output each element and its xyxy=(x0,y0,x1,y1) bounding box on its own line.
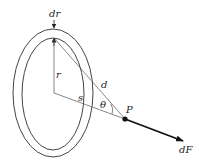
label-df: dF xyxy=(179,144,193,155)
inner-ring xyxy=(22,38,84,150)
label-d: d xyxy=(101,79,107,90)
label-s: s xyxy=(78,92,83,103)
label-r: r xyxy=(56,69,62,80)
ring-diagram: dr r d s θ P dF xyxy=(0,0,199,166)
axis-s-line xyxy=(54,93,125,119)
label-p: P xyxy=(125,104,133,115)
label-dr: dr xyxy=(49,8,61,19)
force-arrow xyxy=(125,119,183,141)
theta-arc xyxy=(111,104,113,114)
point-p xyxy=(122,116,127,121)
distance-d-line xyxy=(54,38,125,119)
label-theta: θ xyxy=(100,99,106,110)
